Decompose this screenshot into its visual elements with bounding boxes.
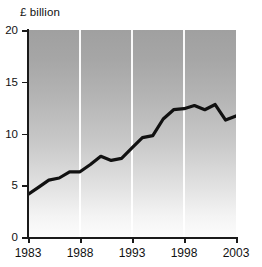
y-tick-label-20: 20 xyxy=(5,24,18,36)
gridline-1998 xyxy=(183,30,185,237)
y-tick-label-15: 15 xyxy=(5,76,18,88)
y-tick-label-0: 0 xyxy=(12,231,18,243)
y-tick-label-5: 5 xyxy=(12,179,18,191)
x-tick-label-1993: 1993 xyxy=(119,246,146,260)
x-tick-1998 xyxy=(184,237,186,243)
x-tick-label-2003: 2003 xyxy=(223,246,250,260)
y-axis-title: £ billion xyxy=(20,6,60,18)
y-tick-label-10: 10 xyxy=(5,128,18,140)
line-chart: £ billion 05101520 19831988199319982003 xyxy=(0,0,262,267)
y-tick-5 xyxy=(22,185,28,187)
y-tick-20 xyxy=(22,30,28,32)
plot-area xyxy=(28,30,236,237)
gridline-1993 xyxy=(131,30,133,237)
y-tick-15 xyxy=(22,82,28,84)
gridline-1988 xyxy=(79,30,81,237)
x-tick-label-1988: 1988 xyxy=(67,246,94,260)
x-tick-1988 xyxy=(80,237,82,243)
x-tick-2003 xyxy=(236,237,238,243)
x-tick-1983 xyxy=(28,237,30,243)
x-tick-1993 xyxy=(132,237,134,243)
x-tick-label-1983: 1983 xyxy=(15,246,42,260)
x-tick-label-1998: 1998 xyxy=(171,246,198,260)
y-tick-10 xyxy=(22,134,28,136)
